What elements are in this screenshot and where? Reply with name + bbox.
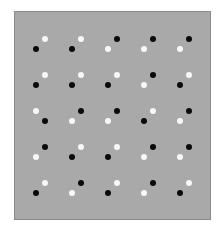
white-dot-r2-c5-upper [186, 72, 192, 78]
black-dot-r2-c5-lower [177, 82, 183, 88]
black-dot-r4-c3-lower [105, 154, 111, 160]
white-dot-r1-c4-lower [141, 46, 147, 52]
white-dot-r1-c1-upper [42, 36, 48, 42]
white-dot-r4-c4-lower [141, 154, 147, 160]
black-dot-r3-c2-upper [78, 108, 84, 114]
black-dot-r2-c2-lower [69, 82, 75, 88]
black-dot-r3-c1-lower [42, 118, 48, 124]
white-dot-r5-c5-upper [186, 180, 192, 186]
black-dot-r4-c2-lower [69, 154, 75, 160]
black-dot-r1-c3-upper [114, 36, 120, 42]
white-dot-r2-c2-upper [78, 72, 84, 78]
black-dot-r1-c1-lower [33, 46, 39, 52]
white-dot-r5-c2-lower [69, 190, 75, 196]
white-dot-r3-c3-lower [105, 118, 111, 124]
black-dot-r5-c4-upper [150, 180, 156, 186]
white-dot-r2-c4-lower [141, 82, 147, 88]
white-dot-r3-c1-upper [33, 108, 39, 114]
white-dot-r4-c3-upper [114, 144, 120, 150]
black-dot-r4-c5-upper [186, 144, 192, 150]
white-dot-r2-c3-upper [114, 72, 120, 78]
black-dot-r2-c4-upper [150, 72, 156, 78]
black-dot-r4-c4-upper [150, 144, 156, 150]
black-dot-r2-c3-lower [105, 82, 111, 88]
white-dot-r2-c1-upper [42, 72, 48, 78]
white-dot-r5-c3-upper [114, 180, 120, 186]
black-dot-r5-c1-lower [33, 190, 39, 196]
white-dot-r5-c1-upper [42, 180, 48, 186]
white-dot-r3-c5-lower [177, 118, 183, 124]
black-dot-r5-c3-lower [105, 190, 111, 196]
white-dot-r1-c5-lower [177, 46, 183, 52]
gray-stimulus-panel [14, 11, 211, 220]
white-dot-r1-c3-lower [105, 46, 111, 52]
white-dot-r3-c4-upper [150, 108, 156, 114]
black-dot-r4-c1-upper [42, 144, 48, 150]
figure-canvas [0, 0, 222, 231]
white-dot-r1-c2-upper [78, 36, 84, 42]
black-dot-r3-c3-upper [114, 108, 120, 114]
black-dot-r2-c1-lower [33, 82, 39, 88]
black-dot-r3-c5-upper [186, 108, 192, 114]
black-dot-r1-c5-upper [186, 36, 192, 42]
black-dot-r5-c5-lower [177, 190, 183, 196]
black-dot-r1-c4-upper [150, 36, 156, 42]
white-dot-r4-c5-lower [177, 154, 183, 160]
black-dot-r3-c4-lower [141, 118, 147, 124]
white-dot-r3-c2-lower [69, 118, 75, 124]
white-dot-r4-c1-lower [33, 154, 39, 160]
black-dot-r1-c2-lower [69, 46, 75, 52]
white-dot-r4-c2-upper [78, 144, 84, 150]
white-dot-r5-c4-lower [141, 190, 147, 196]
black-dot-r5-c2-upper [78, 180, 84, 186]
